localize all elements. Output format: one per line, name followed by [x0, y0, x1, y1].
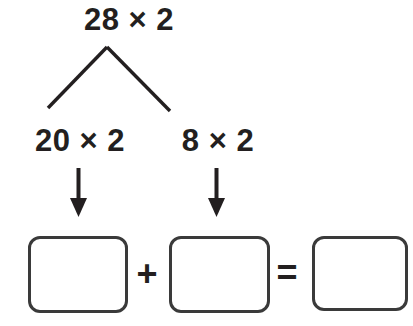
- answer-box-total-product[interactable]: [312, 236, 408, 311]
- branch-expression-right: 8 × 2: [160, 125, 276, 156]
- worksheet-canvas: 28 × 2 20 × 2 8 × 2 + =: [0, 0, 413, 326]
- arrow-down-left-icon: [70, 168, 87, 217]
- answer-box-second-partial-product[interactable]: [169, 236, 270, 313]
- root-expression: 28 × 2: [0, 4, 258, 35]
- answer-box-first-partial-product[interactable]: [28, 236, 128, 313]
- branch-line-left: [48, 47, 107, 108]
- equals-operator: =: [268, 255, 306, 291]
- branch-expression-left: 20 × 2: [0, 125, 160, 156]
- plus-operator: +: [131, 256, 163, 292]
- branch-line-right: [107, 47, 170, 111]
- arrow-down-right-icon: [208, 168, 225, 217]
